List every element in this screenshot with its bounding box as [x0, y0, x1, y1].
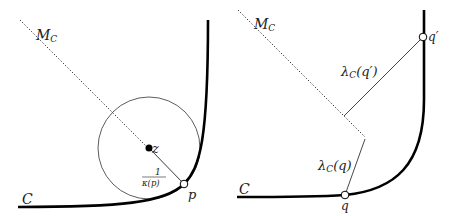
- point-q-prime-label: q′: [428, 30, 439, 44]
- medial-axis-label: MC: [35, 27, 57, 44]
- radius-fraction-label: 1 κ(p): [141, 167, 166, 188]
- point-p: [180, 180, 188, 188]
- svg-text:1: 1: [155, 167, 161, 177]
- curve-label: C: [22, 191, 33, 207]
- figure: MC z p C 1 κ(p) MC C q q′ λC(q′) λC(q): [0, 0, 457, 216]
- svg-text:κ(p): κ(p): [141, 178, 160, 188]
- curve-label: C: [239, 181, 250, 197]
- point-q-prime: [419, 33, 427, 41]
- lambda-q-prime-label: λC(q′): [340, 64, 378, 80]
- point-q: [341, 191, 349, 199]
- right-panel: MC C q q′ λC(q′) λC(q): [237, 10, 439, 213]
- point-q-label: q: [341, 199, 349, 213]
- left-panel: MC z p C 1 κ(p): [18, 20, 208, 207]
- point-p-label: p: [188, 187, 197, 202]
- diagram-canvas: MC z p C 1 κ(p) MC C q q′ λC(q′) λC(q): [0, 0, 457, 216]
- medial-axis-label: MC: [253, 16, 275, 33]
- center-label: z: [151, 141, 159, 156]
- lambda-q-label: λC(q): [317, 158, 352, 174]
